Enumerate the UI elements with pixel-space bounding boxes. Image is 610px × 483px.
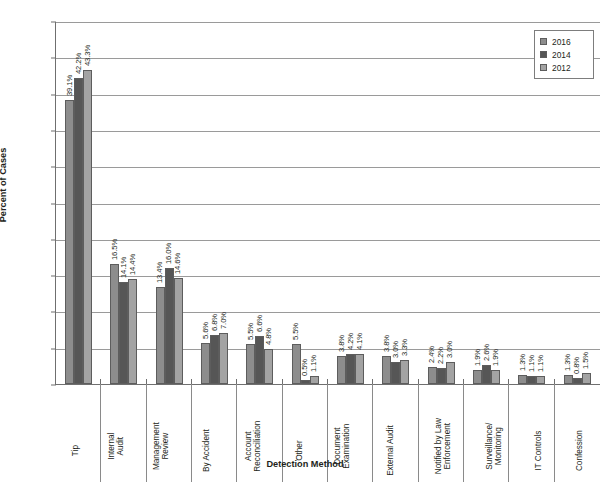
bar-value-label: 0.5% — [301, 359, 310, 376]
bar-2016[interactable]: 13.4% — [156, 287, 165, 384]
x-category-label: Tip — [71, 445, 80, 456]
bar-2014[interactable]: 2.2% — [437, 368, 446, 384]
x-category: Internal Audit — [96, 385, 137, 457]
bar-value-label: 43.3% — [83, 45, 92, 66]
legend-label-2016: 2016 — [552, 37, 571, 47]
bar-value-label: 16.5% — [110, 239, 119, 260]
legend-label-2012: 2012 — [552, 63, 571, 73]
bar-value-label: 3.0% — [446, 341, 455, 358]
bar-value-label: 2.6% — [482, 344, 491, 361]
bar-value-label: 13.4% — [156, 262, 165, 283]
legend-swatch-2016 — [540, 38, 547, 45]
bar-2016[interactable]: 39.1% — [65, 100, 74, 384]
x-category: Other — [279, 385, 320, 457]
bar-value-label: 14.6% — [174, 253, 183, 274]
bar-2016[interactable]: 1.3% — [564, 375, 573, 384]
bar-2014[interactable]: 6.8% — [210, 335, 219, 384]
bar-2012[interactable]: 1.1% — [536, 376, 545, 384]
bar-2016[interactable]: 1.9% — [473, 370, 482, 384]
bar-2012[interactable]: 14.4% — [128, 279, 137, 384]
bar-value-label: 16.0% — [165, 243, 174, 264]
bar-value-label: 3.3% — [400, 339, 409, 356]
bar-value-label: 5.5% — [292, 323, 301, 340]
bar-value-label: 1.5% — [582, 352, 591, 369]
bar-group: 1.9%2.6%1.9% — [464, 22, 509, 384]
bar-2012[interactable]: 1.5% — [582, 373, 591, 384]
bar-2012[interactable]: 4.1% — [355, 354, 364, 384]
bar-groups: 39.1%42.2%43.3%16.5%14.1%14.4%13.4%16.0%… — [56, 22, 600, 384]
bar-group: 5.5%6.6%4.8% — [237, 22, 282, 384]
bar-2014[interactable]: 0.5% — [301, 380, 310, 384]
bar-value-label: 5.6% — [201, 322, 210, 339]
x-axis-title: Detection Method — [0, 459, 610, 469]
bar-2016[interactable]: 1.3% — [518, 375, 527, 384]
bar-value-label: 4.8% — [264, 328, 273, 345]
bar-2014[interactable]: 6.6% — [255, 336, 264, 384]
legend-swatch-2014 — [540, 51, 547, 58]
x-category: Account Reconciliation — [228, 385, 279, 457]
bar-value-label: 4.2% — [346, 333, 355, 350]
x-category: By Accident — [185, 385, 228, 457]
x-category: Management Review — [137, 385, 185, 457]
bar-2014[interactable]: 3.0% — [391, 362, 400, 384]
bar-value-label: 3.8% — [337, 336, 346, 353]
bar-2016[interactable]: 2.4% — [428, 367, 437, 384]
bar-2012[interactable]: 14.6% — [174, 278, 183, 384]
bar-2014[interactable]: 16.0% — [165, 268, 174, 384]
bar-group: 16.5%14.1%14.4% — [101, 22, 146, 384]
bar-value-label: 1.1% — [527, 355, 536, 372]
bar-2014[interactable]: 4.2% — [346, 354, 355, 384]
legend-item-2012[interactable]: 2012 — [540, 61, 588, 74]
x-category: Notified by Law Enforcement — [415, 385, 471, 457]
bar-2016[interactable]: 3.8% — [337, 356, 346, 384]
bar-2014[interactable]: 1.1% — [527, 376, 536, 384]
bar-value-label: 7.0% — [219, 312, 228, 329]
bar-value-label: 14.1% — [119, 257, 128, 278]
bar-value-label: 14.4% — [128, 254, 137, 275]
bar-2012[interactable]: 4.8% — [264, 349, 273, 384]
x-category: IT Controls — [518, 385, 559, 457]
bar-2016[interactable]: 16.5% — [110, 264, 119, 384]
x-category: Document Examination — [320, 385, 365, 457]
x-category: Surveillance/ Monitoring — [471, 385, 518, 457]
x-category: External Audit — [365, 385, 416, 457]
bar-2012[interactable]: 1.9% — [491, 370, 500, 384]
x-category-label: Internal Audit — [107, 432, 125, 459]
bar-group: 5.6%6.8%7.0% — [192, 22, 237, 384]
x-axis-categories: TipInternal AuditManagement ReviewBy Acc… — [55, 385, 600, 457]
x-category: Confession — [559, 385, 600, 457]
bar-group: 13.4%16.0%14.6% — [147, 22, 192, 384]
bar-value-label: 2.2% — [437, 347, 446, 364]
bar-2012[interactable]: 1.1% — [310, 376, 319, 384]
bar-2012[interactable]: 3.0% — [446, 362, 455, 384]
bar-value-label: 5.5% — [246, 323, 255, 340]
bar-value-label: 1.1% — [536, 355, 545, 372]
bar-value-label: 2.4% — [428, 346, 437, 363]
bar-2014[interactable]: 0.8% — [573, 378, 582, 384]
bar-value-label: 1.3% — [564, 354, 573, 371]
legend-item-2014[interactable]: 2014 — [540, 48, 588, 61]
bar-2016[interactable]: 5.5% — [246, 344, 255, 384]
bar-value-label: 6.8% — [210, 314, 219, 331]
bar-value-label: 4.1% — [355, 333, 364, 350]
x-category-label: Other — [294, 440, 303, 460]
bar-value-label: 1.9% — [491, 349, 500, 366]
bar-2012[interactable]: 3.3% — [400, 360, 409, 384]
bar-2012[interactable]: 43.3% — [83, 70, 92, 384]
legend-label-2014: 2014 — [552, 50, 571, 60]
bar-value-label: 0.8% — [573, 357, 582, 374]
bar-2016[interactable]: 5.6% — [201, 343, 210, 384]
bar-2014[interactable]: 2.6% — [482, 365, 491, 384]
bar-value-label: 1.1% — [310, 355, 319, 372]
bar-group: 3.8%3.0%3.3% — [373, 22, 418, 384]
bar-2012[interactable]: 7.0% — [219, 333, 228, 384]
x-category: Tip — [55, 385, 96, 457]
bar-2014[interactable]: 14.1% — [119, 282, 128, 384]
bar-value-label: 1.9% — [473, 349, 482, 366]
bar-chart: 0%5%10%15%20%25%30%35%40%45%50% 39.1%42.… — [0, 0, 610, 483]
bar-group: 2.4%2.2%3.0% — [419, 22, 464, 384]
bar-2016[interactable]: 3.8% — [382, 356, 391, 384]
bar-2014[interactable]: 42.2% — [74, 78, 83, 384]
legend-item-2016[interactable]: 2016 — [540, 35, 588, 48]
bar-value-label: 6.6% — [255, 315, 264, 332]
